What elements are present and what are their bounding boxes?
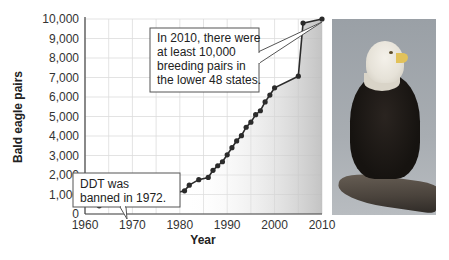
eagle-beak [396,53,408,63]
data-point [253,112,258,117]
callout-2010-line4: the lower 48 states. [157,73,261,87]
x-tick-label: 2010 [309,218,336,232]
data-point [220,159,225,164]
x-tick-label: 1960 [72,218,99,232]
eagle-eye [389,51,393,54]
bald-eagle-photo [332,19,436,215]
data-point [206,175,211,180]
y-tick-label: 6,000 [49,90,79,104]
data-point [210,168,215,173]
x-axis-ticks: 196019701980199020002010 [72,218,336,232]
y-tick-label: 4,000 [49,129,79,143]
y-axis-label: Bald eagle pairs [11,71,25,163]
data-point [272,85,277,90]
data-point [187,183,192,188]
x-tick-label: 1990 [214,218,241,232]
y-tick-label: 3,000 [49,149,79,163]
x-tick-label: 2000 [261,218,288,232]
data-point [263,99,268,104]
data-point [225,152,230,157]
callout-ddt-line1: DDT was [80,177,129,191]
callout-2010-line1: In 2010, there were [157,31,261,45]
callout-ddt: DDT was banned in 1972. [72,173,180,219]
callout-2010-line3: breeding pairs in [157,59,246,73]
data-point [319,16,324,21]
data-point [215,163,220,168]
data-point [182,188,187,193]
y-tick-label: 8,000 [49,51,79,65]
data-point [300,21,305,26]
y-tick-label: 5,000 [49,110,79,124]
data-point [244,125,249,130]
data-point [267,92,272,97]
y-tick-label: 7,000 [49,71,79,85]
x-tick-label: 1970 [119,218,146,232]
y-tick-label: 9,000 [49,32,79,46]
callout-2010-line2: at least 10,000 [157,45,236,59]
x-tick-label: 1980 [166,218,193,232]
data-point [196,177,201,182]
x-axis-label: Year [190,233,216,247]
data-point [229,145,234,150]
data-point [296,74,301,79]
callout-ddt-line2: banned in 1972. [80,191,166,205]
y-tick-label: 10,000 [42,12,79,26]
data-point [239,133,244,138]
data-point [234,138,239,143]
data-point [258,108,263,113]
data-point [248,120,253,125]
